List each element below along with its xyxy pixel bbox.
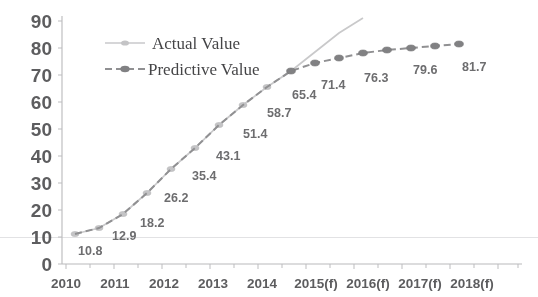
y-tick-label-70: 70 xyxy=(31,65,52,86)
data-label-18-2: 18.2 xyxy=(140,216,164,230)
y-tick-label-80: 80 xyxy=(31,38,52,59)
y-tick-label-40: 40 xyxy=(31,146,52,167)
x-tick-label-2010: 2010 xyxy=(51,276,81,291)
x-tick-label-2014: 2014 xyxy=(247,276,278,291)
legend-label-actual-value: Actual Value xyxy=(152,34,240,53)
y-tick-label-0: 0 xyxy=(41,254,52,275)
y-tick-label-20: 20 xyxy=(31,200,52,221)
x-tick-label-2018f: 2018(f) xyxy=(450,276,494,291)
data-label-58-7: 58.7 xyxy=(267,106,291,120)
data-label-12-9: 12.9 xyxy=(112,229,136,243)
line-chart: 90 80 70 60 50 40 30 20 10 0 2010 2011 2… xyxy=(0,0,538,297)
data-label-81-7: 81.7 xyxy=(462,60,486,74)
y-tick-label-50: 50 xyxy=(31,119,52,140)
y-tick-label-10: 10 xyxy=(31,227,52,248)
chart-svg: 90 80 70 60 50 40 30 20 10 0 2010 2011 2… xyxy=(0,0,538,297)
chart-legend: Actual Value Predictive Value xyxy=(105,34,260,79)
data-label-71-4: 71.4 xyxy=(321,78,345,92)
y-tick-label-60: 60 xyxy=(31,92,52,113)
y-axis-ticks xyxy=(58,21,62,264)
y-tick-label-30: 30 xyxy=(31,173,52,194)
legend-marker-actual-value xyxy=(121,40,129,45)
data-label-65-4: 65.4 xyxy=(292,88,316,102)
x-tick-label-2016f: 2016(f) xyxy=(346,276,390,291)
x-tick-label-2013: 2013 xyxy=(198,276,229,291)
y-tick-label-90: 90 xyxy=(31,11,52,32)
data-label-10-8: 10.8 xyxy=(78,244,102,258)
x-tick-label-2015f: 2015(f) xyxy=(294,276,338,291)
legend-item-actual-value[interactable]: Actual Value xyxy=(105,34,240,53)
legend-label-predictive-value: Predictive Value xyxy=(148,60,260,79)
legend-marker-predictive-value xyxy=(120,66,129,72)
x-tick-label-2017f: 2017(f) xyxy=(398,276,442,291)
data-label-79-6: 79.6 xyxy=(413,63,437,77)
x-tick-label-2011: 2011 xyxy=(100,276,130,291)
data-label-35-4: 35.4 xyxy=(192,169,216,183)
data-label-43-1: 43.1 xyxy=(216,149,240,163)
data-label-76-3: 76.3 xyxy=(364,71,388,85)
data-label-51-4: 51.4 xyxy=(243,127,267,141)
x-tick-label-2012: 2012 xyxy=(149,276,179,291)
x-axis-ticks xyxy=(66,264,518,269)
data-label-26-2: 26.2 xyxy=(164,191,188,205)
legend-item-predictive-value[interactable]: Predictive Value xyxy=(105,60,260,79)
